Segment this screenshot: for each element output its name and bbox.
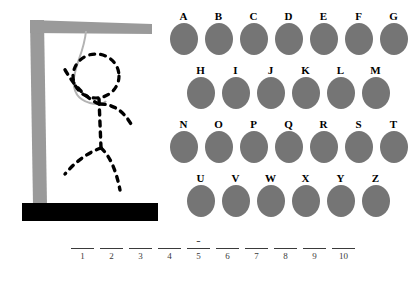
figure-right-leg bbox=[101, 148, 120, 190]
blank-underline bbox=[71, 248, 94, 249]
letter-key-v[interactable]: V bbox=[218, 172, 253, 217]
blank-slot: -5 bbox=[184, 234, 213, 261]
letter-disc-o[interactable] bbox=[205, 131, 233, 163]
blank-underline bbox=[158, 248, 181, 249]
letter-disc-f[interactable] bbox=[345, 23, 373, 55]
letter-label: J bbox=[268, 64, 274, 76]
letter-key-o[interactable]: O bbox=[201, 118, 236, 163]
letter-disc-h[interactable] bbox=[187, 77, 215, 109]
letter-disc-s[interactable] bbox=[345, 131, 373, 163]
letter-label: Z bbox=[372, 172, 379, 184]
letter-disc-n[interactable] bbox=[170, 131, 198, 163]
letter-disc-e[interactable] bbox=[310, 23, 338, 55]
blank-underline bbox=[332, 248, 355, 249]
letter-key-b[interactable]: B bbox=[201, 10, 236, 55]
letter-key-l[interactable]: L bbox=[323, 64, 358, 109]
letter-key-e[interactable]: E bbox=[306, 10, 341, 55]
letter-disc-z[interactable] bbox=[362, 185, 390, 217]
blank-slot: 1 bbox=[68, 234, 97, 261]
letter-key-n[interactable]: N bbox=[166, 118, 201, 163]
letter-key-c[interactable]: C bbox=[236, 10, 271, 55]
letter-key-s[interactable]: S bbox=[341, 118, 376, 163]
letter-label: K bbox=[301, 64, 310, 76]
letter-label: G bbox=[389, 10, 398, 22]
letter-disc-p[interactable] bbox=[240, 131, 268, 163]
blank-slot: 2 bbox=[97, 234, 126, 261]
blank-underline bbox=[274, 248, 297, 249]
letter-disc-i[interactable] bbox=[222, 77, 250, 109]
letter-label: M bbox=[370, 64, 380, 76]
letter-disc-l[interactable] bbox=[327, 77, 355, 109]
letter-disc-t[interactable] bbox=[380, 131, 408, 163]
letter-key-u[interactable]: U bbox=[183, 172, 218, 217]
letter-key-r[interactable]: R bbox=[306, 118, 341, 163]
gallows-beam bbox=[30, 20, 152, 34]
letter-key-k[interactable]: K bbox=[288, 64, 323, 109]
figure-left-leg bbox=[65, 148, 101, 174]
letter-disc-k[interactable] bbox=[292, 77, 320, 109]
letter-key-z[interactable]: Z bbox=[358, 172, 393, 217]
letter-label: X bbox=[302, 172, 310, 184]
letter-label: T bbox=[390, 118, 397, 130]
letter-key-t[interactable]: T bbox=[376, 118, 411, 163]
letter-disc-j[interactable] bbox=[257, 77, 285, 109]
blank-revealed-char bbox=[329, 234, 358, 248]
letter-key-g[interactable]: G bbox=[376, 10, 411, 55]
blank-index-label: 7 bbox=[254, 251, 259, 261]
letter-key-a[interactable]: A bbox=[166, 10, 201, 55]
letter-disc-a[interactable] bbox=[170, 23, 198, 55]
letter-disc-b[interactable] bbox=[205, 23, 233, 55]
letter-label: R bbox=[320, 118, 328, 130]
blank-slot: 6 bbox=[213, 234, 242, 261]
blank-underline bbox=[245, 248, 268, 249]
letter-key-h[interactable]: H bbox=[183, 64, 218, 109]
letter-row: HIJKLM bbox=[166, 64, 416, 118]
letter-key-f[interactable]: F bbox=[341, 10, 376, 55]
word-blanks: 1234-5678910 bbox=[68, 234, 358, 282]
letter-disc-q[interactable] bbox=[275, 131, 303, 163]
letter-key-i[interactable]: I bbox=[218, 64, 253, 109]
letter-key-y[interactable]: Y bbox=[323, 172, 358, 217]
letter-disc-w[interactable] bbox=[257, 185, 285, 217]
blank-revealed-char bbox=[126, 234, 155, 248]
hangman-game: ABCDEFGHIJKLMNOPQRSTUVWXYZ 1234-5678910 bbox=[0, 0, 419, 288]
blank-revealed-char bbox=[155, 234, 184, 248]
letter-disc-u[interactable] bbox=[187, 185, 215, 217]
letter-label: O bbox=[214, 118, 223, 130]
blank-revealed-char bbox=[213, 234, 242, 248]
letter-disc-m[interactable] bbox=[362, 77, 390, 109]
blank-underline bbox=[187, 248, 210, 249]
blank-underline bbox=[303, 248, 326, 249]
blank-revealed-char: - bbox=[184, 234, 213, 248]
blank-index-label: 3 bbox=[138, 251, 143, 261]
letter-key-m[interactable]: M bbox=[358, 64, 393, 109]
letter-label: L bbox=[337, 64, 344, 76]
letter-label: N bbox=[180, 118, 188, 130]
letter-disc-x[interactable] bbox=[292, 185, 320, 217]
blank-row: 1234-5678910 bbox=[68, 234, 358, 261]
letter-label: C bbox=[250, 10, 258, 22]
letter-disc-y[interactable] bbox=[327, 185, 355, 217]
blank-index-label: 4 bbox=[167, 251, 172, 261]
letter-key-j[interactable]: J bbox=[253, 64, 288, 109]
letter-key-p[interactable]: P bbox=[236, 118, 271, 163]
letter-disc-d[interactable] bbox=[275, 23, 303, 55]
letter-label: V bbox=[232, 172, 240, 184]
blank-revealed-char bbox=[271, 234, 300, 248]
letter-row: ABCDEFG bbox=[166, 10, 416, 64]
letter-disc-v[interactable] bbox=[222, 185, 250, 217]
letter-disc-g[interactable] bbox=[380, 23, 408, 55]
blank-underline bbox=[216, 248, 239, 249]
blank-index-label: 9 bbox=[312, 251, 317, 261]
letter-key-x[interactable]: X bbox=[288, 172, 323, 217]
blank-slot: 3 bbox=[126, 234, 155, 261]
letter-key-w[interactable]: W bbox=[253, 172, 288, 217]
letter-key-q[interactable]: Q bbox=[271, 118, 306, 163]
gallows-panel bbox=[0, 0, 168, 232]
letter-label: D bbox=[285, 10, 293, 22]
blank-revealed-char bbox=[97, 234, 126, 248]
letter-label: F bbox=[355, 10, 362, 22]
letter-disc-c[interactable] bbox=[240, 23, 268, 55]
letter-key-d[interactable]: D bbox=[271, 10, 306, 55]
letter-disc-r[interactable] bbox=[310, 131, 338, 163]
